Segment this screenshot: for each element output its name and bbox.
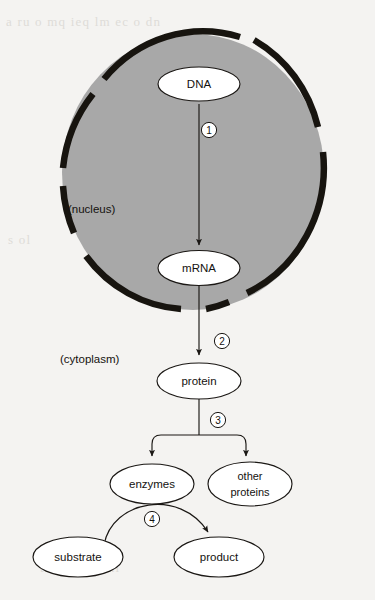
node-enzymes: enzymes bbox=[110, 464, 194, 504]
enzymes-label: enzymes bbox=[129, 478, 175, 490]
node-product: product bbox=[174, 537, 264, 577]
central-dogma-diagram: (nucleus) 1 DNA mRNA 2 (cytoplasm) pro bbox=[0, 0, 375, 600]
protein-label: protein bbox=[181, 375, 216, 387]
node-substrate: substrate bbox=[33, 537, 123, 577]
node-other-proteins: other proteins bbox=[208, 462, 292, 506]
node-protein: protein bbox=[157, 363, 241, 399]
step-4-badge: 4 bbox=[144, 511, 159, 526]
other-proteins-ellipse bbox=[208, 462, 292, 506]
substrate-label: substrate bbox=[54, 551, 101, 563]
dna-label: DNA bbox=[187, 78, 212, 90]
step-1-badge: 1 bbox=[201, 122, 216, 137]
fork-protein-products bbox=[152, 399, 246, 456]
node-dna: DNA bbox=[158, 67, 240, 101]
step-1-number: 1 bbox=[206, 125, 212, 136]
product-label: product bbox=[200, 551, 239, 563]
mrna-label: mRNA bbox=[182, 262, 216, 274]
cytoplasm-label: (cytoplasm) bbox=[60, 353, 120, 365]
fork-crossbar bbox=[152, 435, 246, 444]
step-4-number: 4 bbox=[149, 514, 155, 525]
diagram-page: a ru o mq ieq lm ec o dn s ol tn re ar l… bbox=[0, 0, 375, 600]
step-3-number: 3 bbox=[215, 415, 221, 426]
node-mrna: mRNA bbox=[158, 251, 240, 286]
step-3-badge: 3 bbox=[210, 412, 225, 427]
other-proteins-label-line2: proteins bbox=[230, 486, 270, 498]
nucleus-label: (nucleus) bbox=[68, 203, 115, 215]
other-proteins-label-line1: other bbox=[237, 470, 262, 482]
step-2-badge: 2 bbox=[214, 333, 229, 348]
step-2-number: 2 bbox=[219, 336, 225, 347]
